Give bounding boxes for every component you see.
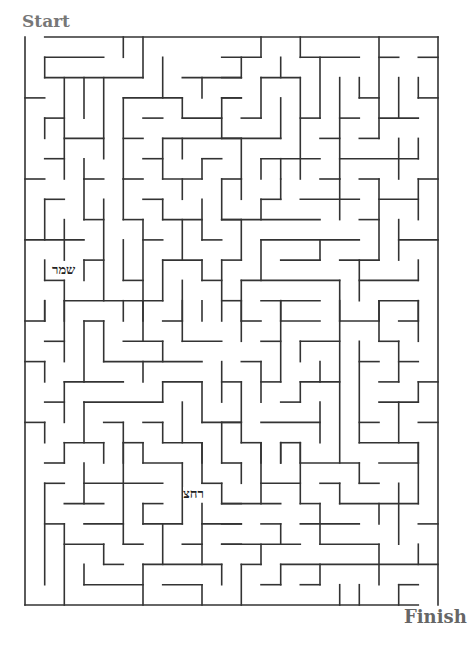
hebrew-word-shamar: שמר bbox=[52, 263, 75, 276]
finish-label: Finish bbox=[404, 606, 467, 627]
hebrew-word-rachatz: רחצ bbox=[183, 487, 204, 500]
maze-walls bbox=[25, 37, 438, 605]
maze-grid[interactable] bbox=[0, 0, 475, 648]
